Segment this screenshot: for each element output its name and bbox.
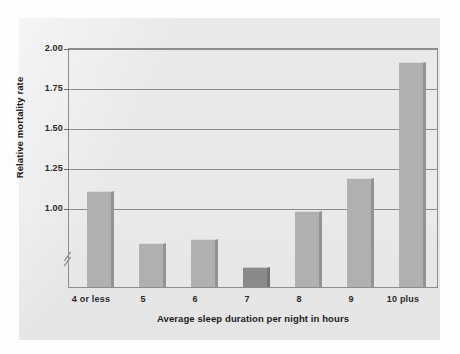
- y-tick-label: 1.25: [45, 163, 63, 173]
- y-tick-mark: [64, 169, 69, 170]
- y-tick-label: 2.00: [45, 43, 63, 53]
- bar-group: [87, 49, 114, 287]
- bar-4-or-less[interactable]: [87, 191, 114, 287]
- bar-group: [139, 49, 166, 287]
- bar-7[interactable]: [243, 267, 270, 287]
- bar-group: [295, 49, 322, 287]
- bar-group: [399, 49, 426, 287]
- bar-10-plus[interactable]: [399, 62, 426, 287]
- bar-group: [191, 49, 218, 287]
- bar-6[interactable]: [191, 239, 218, 287]
- plot-area: [68, 48, 438, 288]
- y-tick-mark: [64, 129, 69, 130]
- bar-group: [243, 49, 270, 287]
- y-tick-label: 1.50: [45, 123, 63, 133]
- y-axis-title: Relative mortality rate: [14, 43, 25, 213]
- x-tick-label-10-plus: 10 plus: [368, 294, 438, 304]
- x-axis-title: Average sleep duration per night in hour…: [68, 313, 438, 324]
- bar-9[interactable]: [347, 178, 374, 287]
- y-tick-label: 1.75: [45, 83, 63, 93]
- y-tick-mark: [64, 89, 69, 90]
- y-tick-mark: [64, 209, 69, 210]
- figure: 2.00 1.75 1.50 1.25 1.00 Relative mortal…: [0, 0, 460, 354]
- bar-5[interactable]: [139, 243, 166, 287]
- y-tick-mark: [64, 49, 69, 50]
- y-tick-label: 1.00: [45, 203, 63, 213]
- bar-8[interactable]: [295, 211, 322, 287]
- bar-group: [347, 49, 374, 287]
